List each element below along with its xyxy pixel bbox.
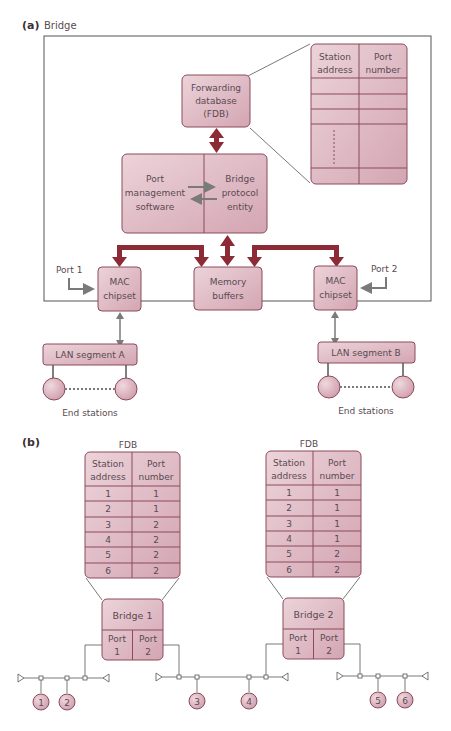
svg-text:2: 2 [145, 647, 151, 657]
svg-text:MAC: MAC [325, 276, 345, 286]
panel-a-title: Bridge [44, 20, 77, 31]
station-4: 4 [241, 693, 257, 709]
svg-text:Forwarding: Forwarding [191, 83, 241, 93]
station-2: 2 [59, 694, 75, 710]
bridge-2: Bridge 2 Port 1 Port 2 [283, 598, 344, 659]
svg-text:3: 3 [194, 697, 200, 707]
svg-text:Port: Port [320, 633, 338, 643]
svg-text:number: number [365, 65, 400, 75]
bridge-protocol-label: Bridge [225, 174, 255, 184]
svg-text:2: 2 [64, 698, 70, 708]
fdb2-cell: 2 [286, 503, 292, 513]
fdb2-cell: 1 [334, 534, 340, 544]
fdb1-cell: 4 [105, 535, 111, 545]
lan-bus-1 [18, 645, 109, 693]
lan-segment-a: LAN segment A [43, 344, 137, 400]
zoom-line [162, 578, 179, 600]
fdb2-cell: 1 [286, 488, 292, 498]
fdb1-cell: 2 [153, 535, 159, 545]
fdb-protocol-arrow [209, 128, 224, 153]
fdb1-cell: 2 [153, 550, 159, 560]
fdb1-title: FDB [119, 440, 137, 450]
end-stations-b-label: End stations [338, 406, 394, 416]
svg-text:Memory: Memory [210, 277, 247, 287]
lan-bus-2 [156, 644, 288, 692]
zoom-line-top [248, 44, 310, 76]
port-1-arrow [69, 278, 93, 289]
fdb2-cell: 4 [286, 534, 292, 544]
fdb1-cell: 6 [105, 566, 111, 576]
panel-b-tag: (b) [22, 436, 40, 449]
svg-text:entity: entity [227, 202, 254, 212]
fdb2-title: FDB [300, 439, 318, 449]
svg-text:protocol: protocol [222, 188, 259, 198]
station-1: 1 [33, 694, 49, 710]
svg-text:Port: Port [328, 458, 346, 468]
port-management-label: Port [146, 174, 164, 184]
fdb1-table: Station address Port number 1 1 2 1 3 2 … [85, 452, 180, 578]
fdb2-cell: 1 [334, 488, 340, 498]
svg-text:address: address [271, 471, 307, 481]
svg-text:6: 6 [402, 696, 408, 706]
fdb2-cell: 2 [334, 565, 340, 575]
mac-lan-arrow-left [116, 312, 124, 347]
fdb-box: Forwarding database (FDB) [182, 75, 250, 127]
fdb2-cell: 1 [334, 519, 340, 529]
end-stations-a-label: End stations [62, 408, 118, 418]
station-3: 3 [189, 693, 205, 709]
svg-text:1: 1 [295, 646, 301, 656]
fdb2-cell: 5 [286, 549, 292, 559]
fdb1-cell: 1 [105, 489, 111, 499]
fdb2-cell: 2 [334, 549, 340, 559]
fdb1-cell: 1 [153, 489, 159, 499]
svg-text:address: address [90, 472, 126, 482]
bridge-diagram: (a) Bridge Forwarding database (FDB) Sta… [0, 0, 451, 731]
mac-chipset-right: MAC chipset [314, 266, 357, 310]
svg-text:Station: Station [92, 459, 124, 469]
fdb1-cell: 1 [153, 504, 159, 514]
svg-text:Port: Port [108, 634, 126, 644]
port-2-arrow [362, 277, 386, 288]
svg-text:LAN segment B: LAN segment B [331, 348, 400, 358]
svg-text:4: 4 [246, 697, 252, 707]
svg-text:(FDB): (FDB) [203, 109, 228, 119]
svg-text:Bridge 2: Bridge 2 [293, 609, 333, 620]
svg-text:address: address [317, 65, 353, 75]
fdb2-cell: 6 [286, 565, 292, 575]
svg-text:1: 1 [114, 647, 120, 657]
svg-text:Port: Port [147, 459, 165, 469]
svg-text:Port: Port [289, 633, 307, 643]
fdb1-cell: 2 [105, 504, 111, 514]
svg-text:number: number [319, 471, 354, 481]
svg-text:MAC: MAC [109, 277, 129, 287]
station-6: 6 [397, 692, 413, 708]
svg-text:chipset: chipset [103, 291, 136, 301]
zoom-line [267, 577, 283, 599]
bus-arrows [112, 235, 344, 267]
mac-lan-arrow-right [331, 311, 339, 345]
protocol-box: Port management software Bridge protocol… [122, 154, 267, 233]
fdb1-cell: 5 [105, 550, 111, 560]
svg-text:database: database [195, 96, 237, 106]
svg-text:number: number [138, 472, 173, 482]
svg-text:chipset: chipset [319, 290, 352, 300]
svg-text:Port: Port [374, 52, 392, 62]
svg-text:Station: Station [319, 52, 351, 62]
bridge-1: Bridge 1 Port 1 Port 2 [102, 599, 163, 660]
svg-text:Port: Port [139, 634, 157, 644]
memory-buffers: Memory buffers [194, 267, 262, 310]
zoom-line [343, 577, 360, 599]
panel-a-tag: (a) [22, 19, 39, 32]
zoom-line [86, 578, 102, 600]
fdb1-cell: 2 [153, 520, 159, 530]
lan-segment-b: LAN segment B [318, 342, 415, 398]
station-5: 5 [370, 692, 386, 708]
fdb2-table: Station address Port number 1 1 2 1 3 1 … [266, 451, 361, 577]
svg-text:1: 1 [38, 698, 44, 708]
fdb2-cell: 1 [334, 503, 340, 513]
svg-text:5: 5 [375, 696, 381, 706]
fdb-table-a: Station address Port number [311, 44, 407, 184]
fdb2-cell: 3 [286, 519, 292, 529]
svg-text:software: software [136, 202, 175, 212]
fdb1-cell: 2 [153, 566, 159, 576]
